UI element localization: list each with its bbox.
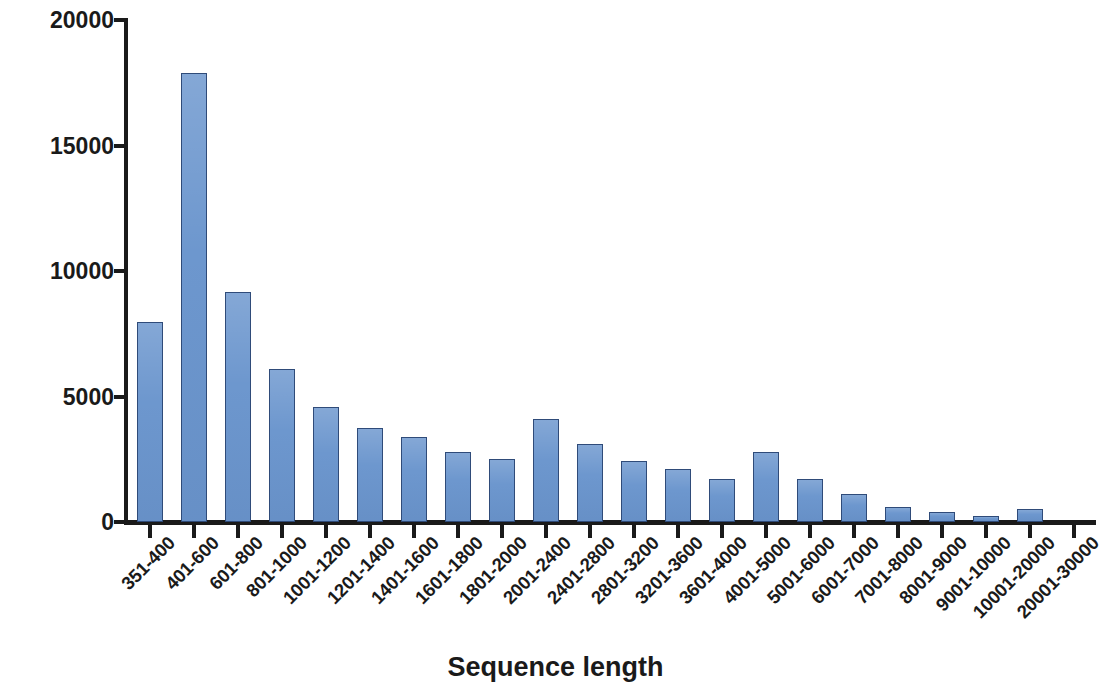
x-axis-tick-mark [984, 525, 988, 538]
x-axis-tick-mark [632, 525, 636, 538]
x-axis-tick-mark [940, 525, 944, 538]
x-axis-tick-mark [544, 525, 548, 538]
x-axis-tick-mark [1028, 525, 1032, 538]
x-axis-tick-mark [588, 525, 592, 538]
x-axis-tick-mark [280, 525, 284, 538]
x-axis-tick-labels: 351-400401-600601-800801-10001001-120012… [0, 0, 1111, 693]
x-axis-tick-mark [192, 525, 196, 538]
x-axis-tick-mark [764, 525, 768, 538]
x-axis-tick-mark [324, 525, 328, 538]
x-axis-tick-mark [456, 525, 460, 538]
x-axis-tick-mark [720, 525, 724, 538]
x-axis-tick-mark [148, 525, 152, 538]
x-axis-tick-mark [236, 525, 240, 538]
x-axis-tick-mark [1072, 525, 1076, 538]
x-axis-tick-mark [368, 525, 372, 538]
y-axis-tick-mark [114, 395, 126, 399]
bar-chart: Sequence number 05000100001500020000 351… [0, 0, 1111, 693]
x-axis-tick-mark [808, 525, 812, 538]
x-axis-tick-mark [852, 525, 856, 538]
x-axis-tick-mark [500, 525, 504, 538]
y-axis-tick-mark [114, 18, 126, 22]
y-axis-tick-mark [114, 144, 126, 148]
y-axis-tick-mark [114, 269, 126, 273]
x-axis-title: Sequence length [0, 652, 1111, 683]
y-axis-tick-mark [114, 520, 126, 524]
x-axis-tick-mark [412, 525, 416, 538]
x-axis-tick-mark [676, 525, 680, 538]
x-axis-tick-mark [896, 525, 900, 538]
